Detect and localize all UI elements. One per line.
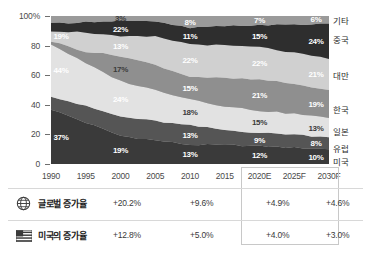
legend-item: 유럽: [333, 142, 349, 154]
data-label: 21%: [308, 70, 323, 79]
data-label: 24%: [308, 37, 323, 46]
table-row: 미국의 증가율+12.8%+5.0%+4.0%+3.0%: [8, 220, 371, 249]
table-cell-value: +5.0%: [190, 230, 213, 240]
data-label: 22%: [113, 24, 128, 33]
y-tick-mark: [45, 46, 50, 47]
x-tick-label: 2030F: [317, 171, 340, 181]
data-label: 19%: [308, 100, 323, 109]
y-tick-mark: [45, 75, 50, 76]
data-label: 22%: [182, 56, 197, 65]
data-label: 13%: [182, 131, 197, 140]
data-label: 24%: [113, 94, 128, 103]
us-flag-icon: [16, 228, 31, 243]
row-separator: [8, 220, 363, 221]
data-label: 44%: [53, 66, 68, 75]
stacked-area-chart: 100%806040200 기타중국대만한국일본유럽미국 19901995200…: [0, 0, 379, 170]
data-label: 3%: [115, 14, 126, 23]
y-tick-mark: [45, 134, 50, 135]
x-tick-label: 2010: [181, 171, 199, 181]
data-label: 15%: [182, 83, 197, 92]
data-label: 13%: [308, 123, 323, 132]
data-label: 21%: [252, 91, 267, 100]
data-label: 6%: [311, 14, 322, 23]
table-cell-value: +3.0%: [326, 230, 349, 240]
data-label: 11%: [183, 31, 198, 40]
x-axis: 1990199520002005201020152020E2025F2030F: [0, 168, 379, 186]
x-tick-label: 2000: [111, 171, 129, 181]
growth-rate-table: 글로벌 증가율+20.2%+9.6%+4.9%+4.6%미국의 증가율+12.8…: [0, 186, 379, 259]
table-row-label: 미국의 증가율: [38, 228, 86, 241]
y-tick-label: 100%: [19, 11, 40, 21]
legend-item: 일본: [333, 125, 349, 137]
x-tick-label: 2015: [216, 171, 234, 181]
data-label: 8%: [311, 139, 322, 148]
table-row-label: 글로벌 증가율: [38, 196, 86, 209]
table-cell-value: +9.6%: [190, 198, 213, 208]
globe-icon: [16, 196, 31, 211]
data-label: 18%: [182, 108, 197, 117]
x-tick-label: 2005: [146, 171, 164, 181]
x-tick-label: 1995: [77, 171, 95, 181]
x-tick-label: 2025F: [283, 171, 306, 181]
data-label: 9%: [254, 135, 265, 144]
data-label: 15%: [252, 117, 267, 126]
y-tick-label: 60: [31, 70, 40, 80]
table-cell-value: +4.0%: [266, 230, 289, 240]
legend-item: 기타: [333, 14, 349, 26]
y-axis: 100%806040200: [0, 0, 48, 170]
x-tick-label: 2020E: [248, 171, 272, 181]
data-label: 37%: [53, 132, 68, 141]
y-tick-mark: [45, 16, 50, 17]
data-label: 7%: [254, 15, 265, 24]
y-tick-label: 40: [31, 100, 40, 110]
data-label: 19%: [53, 31, 68, 40]
y-tick-label: 80: [31, 41, 40, 51]
data-label: 17%: [113, 64, 128, 73]
legend-item: 중국: [333, 33, 349, 45]
table-cell-value: +4.6%: [326, 198, 349, 208]
table-cell-value: +20.2%: [113, 198, 141, 208]
table-cell-value: +4.9%: [266, 198, 289, 208]
data-label: 19%: [113, 145, 128, 154]
legend-item: 한국: [333, 103, 349, 115]
data-label: 22%: [252, 59, 267, 68]
y-tick-mark: [45, 164, 50, 165]
x-tick-label: 1990: [42, 171, 60, 181]
data-label: 12%: [252, 151, 267, 160]
table-row: 글로벌 증가율+20.2%+9.6%+4.9%+4.6%: [8, 188, 371, 217]
legend-item: 대만: [333, 69, 349, 81]
legend-item: 미국: [333, 155, 349, 167]
y-tick-label: 20: [31, 129, 40, 139]
data-label: 8%: [185, 17, 196, 26]
data-label: 13%: [182, 150, 197, 159]
table-cell-value: +12.8%: [113, 230, 141, 240]
row-separator: [8, 188, 363, 189]
infographic-root: 100%806040200 기타중국대만한국일본유럽미국 19901995200…: [0, 0, 379, 259]
data-label: 10%: [308, 152, 323, 161]
data-label: 13%: [113, 42, 128, 51]
data-label: 15%: [252, 31, 267, 40]
y-tick-mark: [45, 105, 50, 106]
